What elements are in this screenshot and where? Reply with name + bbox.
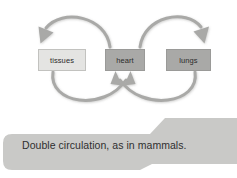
arrow-heart-to-lungs-path [140,17,201,47]
node-tissues: tissues [38,49,86,71]
arrow-heart-to-tissues-path [46,17,110,47]
node-lungs: lungs [166,49,211,71]
arrow-tissues-to-heart-head [124,71,136,86]
arrow-heart-to-lungs-head [194,27,210,44]
node-tissues-label: tissues [50,56,74,65]
arrow-lungs-to-heart-head [111,71,123,86]
node-heart: heart [105,49,145,71]
caption-text: Double circulation, as in mammals. [22,139,222,151]
node-lungs-label: lungs [179,56,197,65]
circulation-diagram: tissues heart lungs Double circulation, … [0,0,237,178]
node-heart-label: heart [116,56,134,65]
